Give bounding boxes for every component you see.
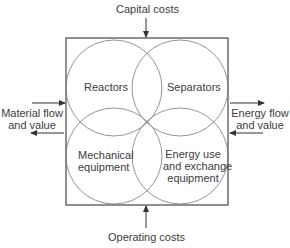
- mechanical-equipment-label: Mechanical equipment: [78, 149, 128, 173]
- energy-use-label: Energy use and exchange equipment: [163, 148, 223, 184]
- operating-costs-label: Operating costs: [108, 231, 184, 243]
- mechanical-equipment-line1: Mechanical: [78, 149, 128, 161]
- reactors-label: Reactors: [84, 81, 124, 93]
- capital-costs-label: Capital costs: [116, 3, 176, 15]
- material-flow-label-line1: Material flow: [0, 107, 64, 119]
- mechanical-equipment-line2: equipment: [78, 161, 128, 173]
- energy-flow-label-line1: Energy flow: [230, 107, 290, 119]
- material-flow-label-line2: and value: [0, 119, 64, 131]
- energy-use-line2: and exchange: [163, 160, 223, 172]
- separators-label: Separators: [167, 81, 217, 93]
- material-flow-label: Material flow and value: [0, 107, 64, 131]
- energy-use-line3: equipment: [163, 172, 223, 184]
- energy-use-line1: Energy use: [163, 148, 223, 160]
- energy-flow-label: Energy flow and value: [230, 107, 290, 131]
- energy-flow-label-line2: and value: [230, 119, 290, 131]
